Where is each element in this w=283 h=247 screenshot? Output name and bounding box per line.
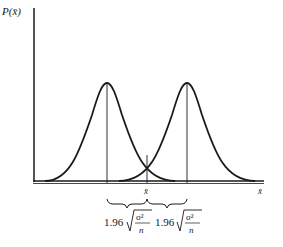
- left-interval-label: 1.96 σ² n: [104, 210, 152, 235]
- left-brace: [107, 199, 147, 208]
- svg-text:σ²: σ²: [136, 212, 144, 222]
- y-axis-label: P(x̄): [1, 5, 21, 18]
- svg-text:1.96: 1.96: [104, 216, 124, 228]
- x-axis-label: x̄: [257, 186, 263, 196]
- sampling-distribution-diagram: P(x̄) x̄ x̄ 1.96 σ² n 1.96 σ² n: [0, 0, 283, 247]
- svg-text:n: n: [189, 225, 194, 235]
- right-interval-label: 1.96 σ² n: [155, 210, 202, 235]
- svg-text:σ²: σ²: [186, 212, 194, 222]
- right-brace: [147, 199, 187, 208]
- left-normal-curve: [45, 83, 175, 181]
- center-x-label: x̄: [143, 186, 149, 196]
- svg-text:n: n: [139, 225, 144, 235]
- svg-text:1.96: 1.96: [155, 216, 175, 228]
